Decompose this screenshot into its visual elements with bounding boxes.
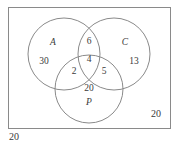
region-count-c-and-p-only: 5 [102, 67, 107, 77]
venn-diagram-graphic [0, 0, 179, 146]
region-count-a-and-c-and-p: 4 [87, 55, 92, 65]
region-count-a-and-p-only: 2 [72, 67, 77, 77]
set-label-p: P [86, 98, 92, 108]
universe-count-label: 20 [151, 109, 161, 119]
universe-rectangle [9, 8, 171, 129]
set-label-c: C [122, 38, 128, 48]
region-count-a-and-c-only: 6 [87, 37, 92, 47]
region-count-c-only: 13 [129, 57, 139, 67]
region-count-a-only: 30 [39, 57, 49, 67]
outside-count-label: 20 [9, 132, 19, 142]
region-count-p-only: 20 [84, 84, 94, 94]
venn-diagram-canvas: A C P 30 13 6 4 2 5 20 20 20 [0, 0, 179, 146]
set-label-a: A [50, 38, 56, 48]
